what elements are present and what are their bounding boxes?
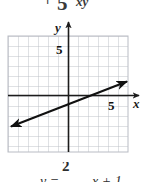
bottom-cropped-caption: 2 y = x + 1	[0, 162, 146, 182]
graph-figure: | 5 xy 5 5 y	[0, 0, 146, 182]
y-axis-label: y	[53, 20, 61, 35]
bottom-caption-right: x + 1	[92, 174, 122, 182]
y-axis-tick-label: 5	[56, 42, 63, 57]
coordinate-plane: 5 5 y x	[0, 0, 146, 182]
x-axis-tick-label: 5	[108, 98, 115, 113]
x-axis-label: x	[132, 96, 140, 111]
bottom-caption-left: y =	[40, 174, 59, 182]
bottom-caption-numerator: 2	[62, 162, 70, 175]
